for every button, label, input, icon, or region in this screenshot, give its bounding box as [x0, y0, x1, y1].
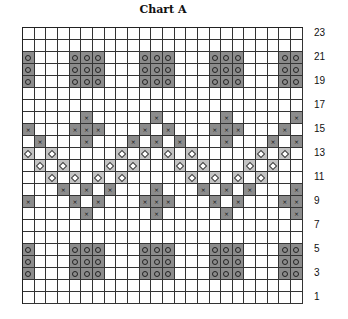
- chart-cell: [163, 292, 175, 304]
- chart-cell: ×: [23, 196, 35, 208]
- chart-cell: [256, 64, 268, 76]
- chart-cell: [186, 124, 198, 136]
- circle-icon: [84, 259, 90, 265]
- chart-cell: [23, 256, 35, 268]
- chart-cell: [128, 28, 140, 40]
- diamond-icon: [117, 149, 125, 157]
- chart-cell: [268, 292, 280, 304]
- cross-icon: ×: [212, 127, 217, 133]
- chart-cell: [210, 268, 222, 280]
- cross-icon: ×: [107, 187, 112, 193]
- circle-icon: [293, 259, 299, 265]
- chart-cell: ×: [70, 124, 82, 136]
- chart-cell: [268, 40, 280, 52]
- chart-cell: [210, 232, 222, 244]
- chart-cell: [105, 172, 117, 184]
- chart-cell: [244, 136, 256, 148]
- chart-cell: [256, 268, 268, 280]
- chart-cell: [186, 232, 198, 244]
- diamond-icon: [281, 149, 289, 157]
- chart-cell: [70, 64, 82, 76]
- chart-cell: [151, 148, 163, 160]
- cross-icon: ×: [96, 127, 101, 133]
- circle-icon: [223, 271, 229, 277]
- chart-cell: [186, 64, 198, 76]
- chart-cell: ×: [163, 124, 175, 136]
- chart-cell: [140, 64, 152, 76]
- chart-cell: [244, 148, 256, 160]
- chart-cell: [35, 268, 47, 280]
- chart-cell: [105, 52, 117, 64]
- diamond-icon: [257, 149, 265, 157]
- chart-cell: [186, 28, 198, 40]
- chart-cell: [244, 28, 256, 40]
- cross-icon: ×: [247, 187, 252, 193]
- chart-cell: [35, 196, 47, 208]
- chart-cell: [23, 88, 35, 100]
- circle-icon: [165, 79, 171, 85]
- chart-cell: [116, 52, 128, 64]
- chart-cell: ×: [81, 136, 93, 148]
- chart-cell: [256, 280, 268, 292]
- chart-cell: [151, 124, 163, 136]
- chart-cell: [221, 232, 233, 244]
- chart-cell: [186, 76, 198, 88]
- knitting-chart-grid: ××××××××××××××××××××××××××××××××××××××××…: [22, 27, 303, 304]
- cross-icon: ×: [72, 199, 77, 205]
- chart-cell: [70, 148, 82, 160]
- chart-cell: [116, 64, 128, 76]
- chart-cell: ×: [81, 208, 93, 220]
- chart-cell: [198, 88, 210, 100]
- chart-cell: [46, 160, 58, 172]
- chart-cell: [140, 256, 152, 268]
- chart-cell: [186, 52, 198, 64]
- chart-cell: [163, 256, 175, 268]
- chart-cell: [291, 232, 303, 244]
- chart-cell: [244, 100, 256, 112]
- chart-cell: ×: [93, 196, 105, 208]
- cross-icon: ×: [224, 211, 229, 217]
- circle-icon: [293, 271, 299, 277]
- chart-cell: [128, 220, 140, 232]
- chart-cell: ×: [140, 196, 152, 208]
- chart-cell: [23, 220, 35, 232]
- chart-cell: [175, 40, 187, 52]
- chart-cell: [279, 64, 291, 76]
- chart-cell: [105, 76, 117, 88]
- chart-cell: ×: [81, 184, 93, 196]
- chart-cell: [140, 88, 152, 100]
- chart-cell: [279, 76, 291, 88]
- chart-cell: [175, 280, 187, 292]
- chart-cell: [81, 148, 93, 160]
- chart-cell: [210, 256, 222, 268]
- chart-cell: [58, 292, 70, 304]
- chart-cell: [23, 28, 35, 40]
- diamond-icon: [211, 173, 219, 181]
- circle-icon: [282, 79, 288, 85]
- row-label: 3: [314, 267, 320, 279]
- chart-cell: [35, 208, 47, 220]
- chart-cell: [210, 136, 222, 148]
- chart-cell: [35, 40, 47, 52]
- row-label: 19: [314, 75, 325, 87]
- diamond-icon: [141, 149, 149, 157]
- diamond-icon: [176, 161, 184, 169]
- chart-cell: [128, 52, 140, 64]
- chart-cell: [210, 292, 222, 304]
- chart-cell: [186, 100, 198, 112]
- chart-cell: [70, 256, 82, 268]
- chart-cell: [233, 64, 245, 76]
- chart-cell: [140, 136, 152, 148]
- chart-cell: [58, 160, 70, 172]
- chart-cell: [198, 124, 210, 136]
- chart-cell: [140, 220, 152, 232]
- circle-icon: [142, 247, 148, 253]
- chart-cell: [151, 88, 163, 100]
- chart-cell: [198, 280, 210, 292]
- diamond-icon: [117, 173, 125, 181]
- chart-cell: [58, 100, 70, 112]
- chart-cell: [233, 148, 245, 160]
- circle-icon: [72, 259, 78, 265]
- chart-cell: [233, 232, 245, 244]
- chart-cell: [233, 112, 245, 124]
